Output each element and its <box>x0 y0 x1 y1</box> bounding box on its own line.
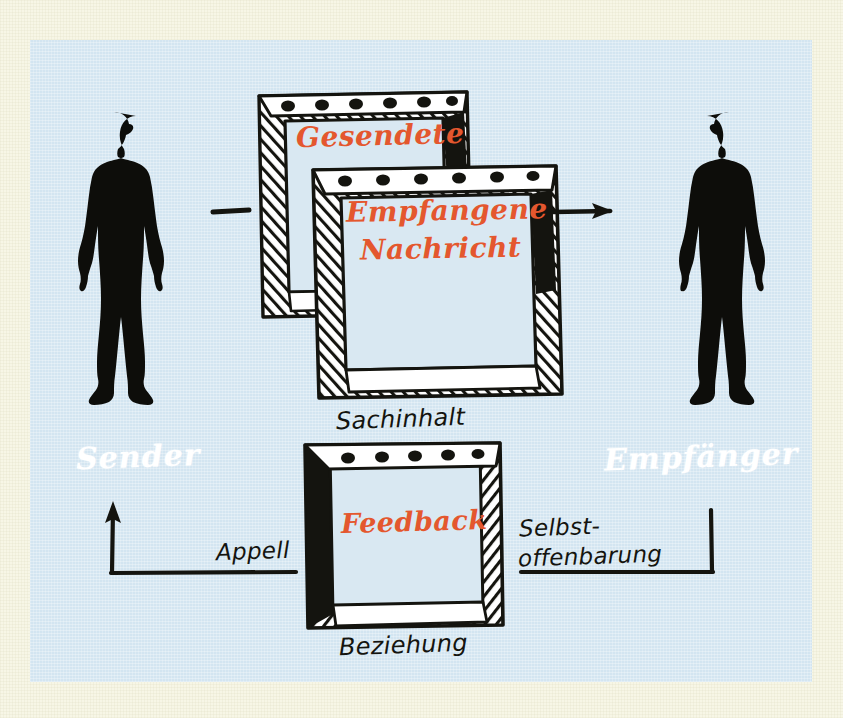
side-label-selbstoffenbarung-line1: Selbst- <box>519 514 601 541</box>
side-label-selbstoffenbarung-line2: offenbarung <box>518 541 663 570</box>
side-label-beziehung: Beziehung <box>339 631 469 661</box>
sent-message-label: Gesendete <box>296 119 465 153</box>
diagram-canvas: Gesendete Empfangene Nachricht Feedback … <box>0 0 843 718</box>
feedback-label: Feedback <box>341 506 488 538</box>
sender-role-label: Sender <box>75 439 200 475</box>
side-label-appell: Appell <box>216 538 290 565</box>
received-message-label-line2: Nachricht <box>360 233 522 265</box>
receiver-role-label: Empfänger <box>604 438 800 476</box>
received-message-label-line1: Empfangene <box>346 194 548 227</box>
side-label-sachinhalt: Sachinhalt <box>336 405 466 435</box>
